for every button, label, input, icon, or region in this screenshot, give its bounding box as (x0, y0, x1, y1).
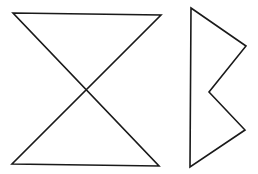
figure-canvas (0, 0, 258, 174)
